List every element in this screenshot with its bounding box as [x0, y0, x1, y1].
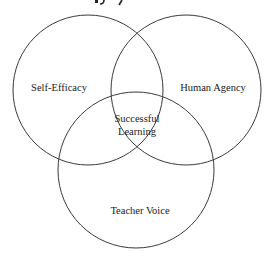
venn-diagram: Self-Efficacy Human Agency Successful Le…: [0, 0, 273, 272]
label-teacher-voice: Teacher Voice: [110, 205, 170, 216]
label-center-line1: Successful: [115, 113, 160, 124]
label-human-agency: Human Agency: [180, 82, 246, 93]
label-center-line2: Learning: [118, 126, 157, 137]
label-self-efficacy: Self-Efficacy: [31, 82, 88, 93]
cropped-title-fragment: [95, 0, 122, 5]
